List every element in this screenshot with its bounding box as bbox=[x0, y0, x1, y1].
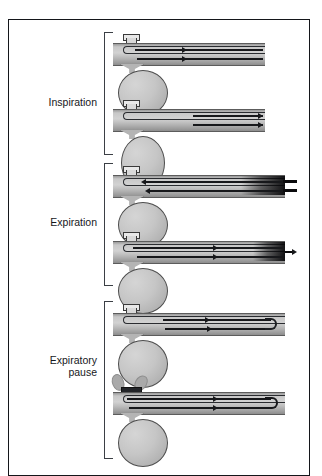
panel-4 bbox=[113, 232, 313, 298]
panel-4-exit-arrow bbox=[292, 249, 297, 255]
ventilator-circuit-figure: Inspiration bbox=[0, 0, 322, 476]
panel-4-arrow-lower bbox=[213, 254, 218, 260]
panel-5-flowline-upper bbox=[163, 319, 271, 321]
panel-6 bbox=[113, 374, 313, 454]
panel-6-flowline-lower bbox=[129, 407, 271, 409]
panel-6-arrow-lower bbox=[213, 405, 218, 411]
panel-1 bbox=[113, 34, 303, 100]
panel-6-flowline-upper bbox=[127, 398, 271, 400]
panel-5-flowline-lower bbox=[165, 328, 271, 330]
panel-3-flowline-lower bbox=[149, 190, 285, 192]
panel-3-exit-stroke-lower bbox=[283, 189, 297, 192]
panel-1-arrow-upper bbox=[182, 47, 187, 53]
panel-2-arrow-lower bbox=[258, 122, 263, 128]
panel-4-flowline-upper bbox=[133, 247, 283, 249]
panel-3-exit-stroke-upper bbox=[283, 180, 297, 183]
panel-4-arrow-upper bbox=[213, 245, 218, 251]
panel-6-arrow-upper bbox=[213, 396, 218, 402]
panel-1-flowline-lower bbox=[137, 58, 263, 60]
figure-frame: Inspiration bbox=[8, 19, 310, 476]
panel-2-flowline-lower bbox=[193, 124, 263, 126]
bracket-expiration bbox=[104, 163, 113, 286]
panel-3-arrow-upper bbox=[141, 179, 146, 185]
panel-3 bbox=[113, 166, 313, 232]
panel-2 bbox=[113, 100, 303, 172]
panel-6-u-turn-loop bbox=[265, 397, 278, 409]
panel-5-u-turn-loop bbox=[265, 318, 277, 330]
panel-3-arrow-lower bbox=[145, 188, 150, 194]
panel-1-arrow-lower bbox=[182, 56, 187, 62]
panel-5 bbox=[113, 304, 313, 372]
phase-label-inspiration: Inspiration bbox=[19, 97, 97, 109]
phase-label-expiration: Expiration bbox=[19, 217, 97, 229]
panel-1-flowline-upper bbox=[135, 49, 263, 51]
panel-5-arrow-upper bbox=[205, 317, 210, 323]
phase-label-expiratory-pause: Expiratory pause bbox=[19, 355, 97, 378]
panel-5-arrow-lower bbox=[207, 326, 212, 332]
panel-6-lung-balloon bbox=[118, 419, 168, 467]
bracket-inspiration bbox=[104, 32, 113, 155]
panel-2-flowline-upper bbox=[193, 115, 263, 117]
panel-4-flowline-lower bbox=[137, 256, 283, 258]
panel-3-flowline-upper bbox=[145, 181, 283, 183]
panel-2-arrow-upper bbox=[258, 113, 263, 119]
